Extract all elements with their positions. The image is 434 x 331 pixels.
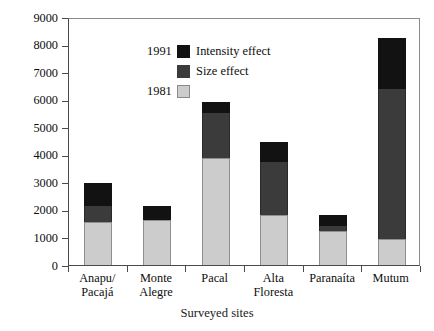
legend-year-1991: 1991 — [147, 44, 177, 59]
bar-alta-floresta — [260, 142, 288, 265]
segment-intensity-effect — [378, 38, 406, 89]
segment-size-effect — [202, 113, 230, 157]
legend-label-size-effect: Size effect — [196, 64, 248, 79]
legend-label-intensity-effect: Intensity effect — [196, 44, 270, 59]
segment-size-effect — [378, 89, 406, 239]
legend-swatch-size-icon — [177, 65, 190, 78]
segment-size-effect — [260, 162, 288, 216]
y-axis-tick-label: 0 — [16, 260, 58, 272]
y-axis-tick-label: 3000 — [16, 177, 58, 189]
stacked-bar-chart: Hectares 9000800070006000500040003000200… — [0, 0, 434, 331]
y-axis-tick-label: 7000 — [16, 67, 58, 79]
segment-intensity-effect — [143, 206, 171, 220]
bar-parana-ta — [319, 215, 347, 265]
plot-area: 1991 Intensity effect Size effect 1981 — [68, 18, 420, 266]
legend-swatch-intensity-icon — [177, 45, 190, 58]
legend-swatch-1981-icon — [177, 85, 190, 98]
segment-1981 — [319, 231, 347, 265]
segment-intensity-effect — [319, 215, 347, 227]
segment-intensity-effect — [202, 102, 230, 113]
legend-year-1981: 1981 — [147, 84, 177, 99]
y-axis-tick-label: 4000 — [16, 149, 58, 161]
chart-legend: 1991 Intensity effect Size effect 1981 — [147, 41, 270, 101]
y-axis-tick-label: 6000 — [16, 94, 58, 106]
bar-mutum — [378, 38, 406, 265]
x-axis-category-line: Mutum — [353, 272, 429, 286]
y-axis-tick-label: 1000 — [16, 232, 58, 244]
segment-1981 — [202, 158, 230, 265]
bar-anapu-pacaj — [84, 183, 112, 265]
x-axis-category-line: Floresta — [235, 286, 311, 300]
y-axis-tick-label: 8000 — [16, 39, 58, 51]
bar-pacal — [202, 102, 230, 265]
y-axis-tick-label: 5000 — [16, 122, 58, 134]
x-axis-category-line: Alegre — [118, 286, 194, 300]
y-axis-tick-label: 2000 — [16, 204, 58, 216]
legend-item-1981: 1981 — [147, 81, 270, 101]
x-axis-title: Surveyed sites — [0, 306, 434, 321]
segment-1981 — [260, 215, 288, 265]
segment-size-effect — [84, 206, 112, 223]
segment-intensity-effect — [260, 142, 288, 161]
segment-1981 — [378, 239, 406, 265]
y-axis-tick-label: 9000 — [16, 12, 58, 24]
bar-monte-alegre — [143, 206, 171, 265]
segment-1981 — [143, 220, 171, 265]
legend-item-size-effect: Size effect — [147, 61, 270, 81]
x-axis-category-label: Mutum — [353, 272, 429, 286]
segment-1981 — [84, 222, 112, 265]
legend-item-intensity-effect: 1991 Intensity effect — [147, 41, 270, 61]
segment-intensity-effect — [84, 183, 112, 206]
